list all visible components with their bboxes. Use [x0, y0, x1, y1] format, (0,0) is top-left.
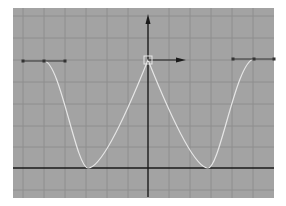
axes [13, 14, 274, 197]
arrow-right-icon[interactable] [176, 58, 186, 63]
keyframe-point[interactable] [43, 60, 46, 63]
keyframe-point[interactable] [273, 58, 276, 61]
animation-curve[interactable] [44, 59, 254, 168]
keyframe-point[interactable] [232, 58, 235, 61]
graph-canvas[interactable] [0, 0, 286, 206]
tangent-handle[interactable] [148, 58, 186, 63]
keyframe-point[interactable] [253, 58, 256, 61]
keyframe-point[interactable] [64, 60, 67, 63]
grid-lines [13, 8, 274, 198]
keyframe-point[interactable] [22, 60, 25, 63]
